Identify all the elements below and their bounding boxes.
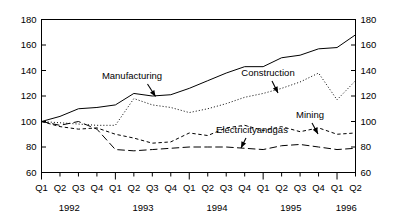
x-axis-quarter-label: Q4: [238, 182, 251, 193]
y-axis-right-label: 160: [361, 39, 377, 50]
x-axis-year-label: 1995: [280, 202, 301, 213]
x-axis-year-label: 1994: [206, 202, 227, 213]
x-axis-quarter-label: Q2: [128, 182, 141, 193]
x-axis-quarter-label: Q3: [146, 182, 159, 193]
y-axis-left-label: 80: [26, 141, 37, 152]
x-axis-quarter-label: Q2: [275, 182, 288, 193]
y-axis-right-label: 60: [361, 167, 372, 178]
x-axis-quarter-label: Q1: [183, 182, 196, 193]
annotation-label: Construction: [241, 67, 294, 78]
x-axis-quarter-label: Q3: [220, 182, 233, 193]
x-axis-quarter-label: Q4: [91, 182, 104, 193]
annotation-label: Electricityandgas: [216, 124, 288, 135]
x-axis-quarter-label: Q3: [72, 182, 85, 193]
x-axis-quarter-label: Q4: [164, 182, 177, 193]
y-axis-left-label: 160: [21, 39, 37, 50]
y-axis-right-label: 120: [361, 90, 377, 101]
y-axis-right-label: 100: [361, 116, 377, 127]
x-axis-quarter-label: Q1: [35, 182, 48, 193]
y-axis-right-label: 80: [361, 141, 372, 152]
x-axis-year-label: 1992: [59, 202, 80, 213]
y-axis-left-label: 60: [26, 167, 37, 178]
x-axis-quarter-label: Q1: [331, 182, 344, 193]
x-axis-year-label: 1996: [336, 202, 357, 213]
x-axis-quarter-label: Q4: [312, 182, 325, 193]
x-axis-quarter-label: Q2: [54, 182, 67, 193]
x-axis-quarter-label: Q1: [257, 182, 270, 193]
chart-canvas: 6080100120140160180 6080100120140160180 …: [0, 0, 396, 217]
annotation-label: Mining: [296, 109, 324, 120]
y-axis-left-label: 140: [21, 65, 37, 76]
annotation-label: Manufacturing: [102, 70, 162, 81]
x-axis-quarter-label: Q2: [349, 182, 362, 193]
y-axis-left-label: 120: [21, 90, 37, 101]
x-axis-quarter-label: Q1: [109, 182, 122, 193]
x-axis-quarter-label: Q2: [201, 182, 214, 193]
x-axis-year-label: 1993: [133, 202, 154, 213]
quarterly-index-line-chart: 6080100120140160180 6080100120140160180 …: [0, 0, 396, 217]
x-axis-quarter-label: Q3: [294, 182, 307, 193]
y-axis-left-label: 180: [21, 14, 37, 25]
y-axis-right-label: 140: [361, 65, 377, 76]
y-axis-left-label: 100: [21, 116, 37, 127]
y-axis-right-label: 180: [361, 14, 377, 25]
